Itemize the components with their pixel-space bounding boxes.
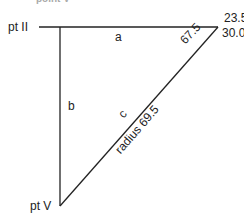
latitude-label: 23.5 N bbox=[224, 12, 244, 24]
longitude-label: 30.00 E bbox=[222, 27, 244, 39]
side-a-label: a bbox=[115, 31, 122, 43]
side-b-label: b bbox=[68, 100, 75, 112]
triangle-diagram bbox=[0, 0, 244, 215]
point-v-label: pt V bbox=[30, 200, 51, 212]
point-ii-label: pt II bbox=[8, 21, 28, 33]
